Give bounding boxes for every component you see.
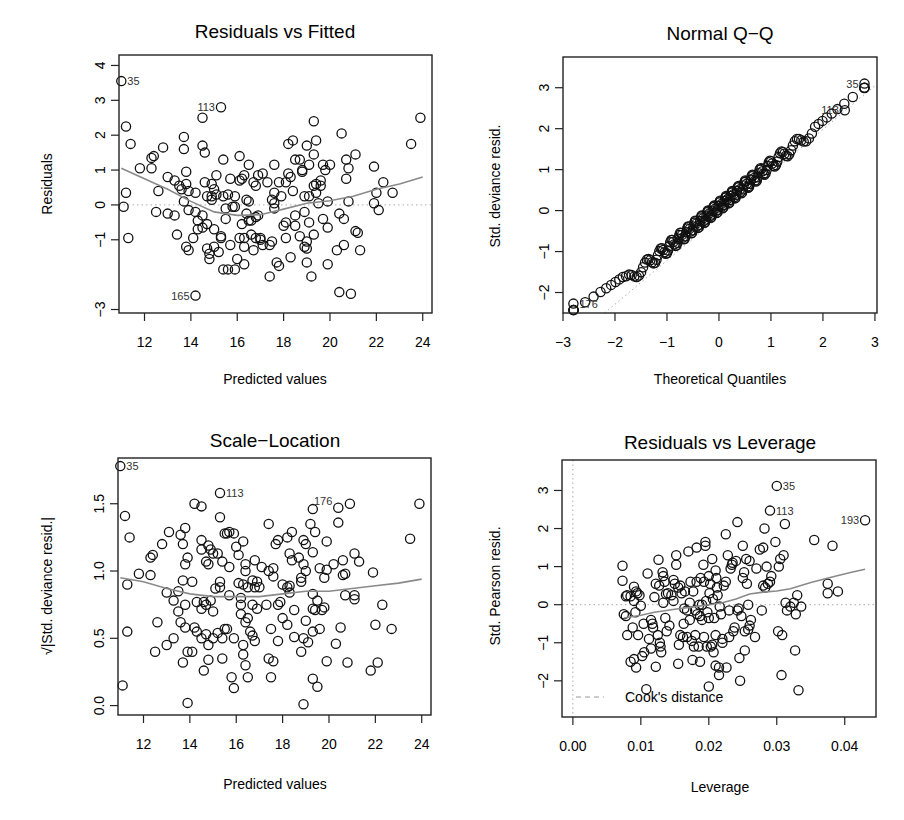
y-tick-label: 3 — [536, 84, 552, 92]
data-point — [124, 233, 133, 242]
data-point — [407, 139, 416, 148]
y-tick-label: 0 — [536, 206, 552, 214]
data-point — [848, 92, 857, 101]
x-axis-label: Predicted values — [223, 371, 327, 387]
data-point — [183, 698, 192, 707]
data-point — [146, 553, 155, 562]
data-point — [179, 145, 188, 154]
data-point — [366, 666, 375, 675]
data-point — [659, 598, 668, 607]
x-tick-label: 16 — [229, 334, 245, 350]
data-point — [733, 518, 742, 527]
data-point — [229, 684, 238, 693]
data-point — [762, 562, 771, 571]
data-point — [198, 113, 207, 122]
point-label: 193 — [841, 514, 859, 526]
data-point — [266, 624, 275, 633]
x-axis: 0.000.010.020.030.04 — [559, 717, 858, 754]
y-tick-label: 1 — [536, 166, 552, 174]
data-point — [406, 534, 415, 543]
data-point — [262, 600, 271, 609]
y-tick-label: 1 — [535, 563, 551, 571]
data-point — [244, 160, 253, 169]
data-point — [305, 218, 314, 227]
data-point — [241, 566, 250, 575]
data-point — [369, 162, 378, 171]
data-point — [226, 240, 235, 249]
data-point — [278, 614, 287, 623]
x-tick-label: 16 — [228, 736, 244, 752]
plot-frame — [563, 57, 877, 313]
x-tick-label: 24 — [415, 334, 431, 350]
y-tick-label: 1 — [92, 166, 108, 174]
data-point — [135, 164, 144, 173]
data-point — [302, 244, 311, 253]
point-label: 35 — [846, 78, 858, 90]
data-point — [178, 658, 187, 667]
data-point — [270, 160, 279, 169]
data-point — [745, 556, 754, 565]
x-tick-label: 12 — [136, 736, 152, 752]
y-tick-label: 3 — [92, 96, 108, 104]
x-tick-label: 0.00 — [559, 738, 586, 754]
plot-area: 351131930.000.010.020.030.043210−1−2 — [535, 460, 876, 754]
data-points — [618, 481, 870, 695]
x-axis-label: Leverage — [691, 779, 750, 795]
cooks-distance-legend: Cook's distance — [576, 689, 724, 705]
data-point — [283, 620, 292, 629]
data-point — [331, 639, 340, 648]
x-tick-label: 20 — [322, 334, 338, 350]
data-point — [320, 603, 329, 612]
data-point — [338, 556, 347, 565]
data-point — [215, 513, 224, 522]
data-point — [273, 600, 282, 609]
x-axis: −3−2−10123 — [555, 313, 879, 350]
data-point — [654, 555, 663, 564]
data-point — [317, 605, 326, 614]
data-point — [154, 186, 163, 195]
data-point — [699, 632, 708, 641]
y-tick-label: 2 — [535, 524, 551, 532]
data-point — [273, 636, 282, 645]
data-point — [236, 600, 245, 609]
data-point — [169, 634, 178, 643]
data-point — [205, 254, 214, 263]
data-point — [692, 543, 701, 552]
data-point — [121, 122, 130, 131]
data-point — [353, 228, 362, 237]
data-point — [121, 188, 130, 197]
data-point — [309, 150, 318, 159]
x-tick-label: 0 — [715, 334, 723, 350]
data-point — [215, 577, 224, 586]
data-point — [172, 230, 181, 239]
data-point — [307, 272, 316, 281]
data-point — [263, 178, 272, 187]
data-point — [126, 139, 135, 148]
panel-title: Normal Q−Q — [666, 23, 773, 44]
data-point — [368, 568, 377, 577]
data-point — [229, 634, 238, 643]
data-point — [123, 627, 132, 636]
y-tick-label: 2 — [536, 125, 552, 133]
data-point — [204, 560, 213, 569]
x-tick-label: 18 — [275, 736, 291, 752]
data-point — [757, 606, 766, 615]
data-point — [342, 155, 351, 164]
data-point — [266, 673, 275, 682]
data-point — [636, 601, 645, 610]
data-point — [179, 132, 188, 141]
data-point — [699, 560, 708, 569]
data-point — [644, 634, 653, 643]
y-axis-label: Residuals — [39, 153, 55, 214]
data-point — [374, 206, 383, 215]
data-point — [387, 624, 396, 633]
data-point — [204, 640, 213, 649]
data-point — [297, 647, 306, 656]
y-axis: 43210−1−3 — [92, 61, 119, 317]
data-point — [634, 631, 643, 640]
data-point — [215, 488, 224, 497]
data-point — [249, 246, 258, 255]
data-point — [209, 607, 218, 616]
data-point — [708, 554, 717, 563]
data-point — [134, 569, 143, 578]
